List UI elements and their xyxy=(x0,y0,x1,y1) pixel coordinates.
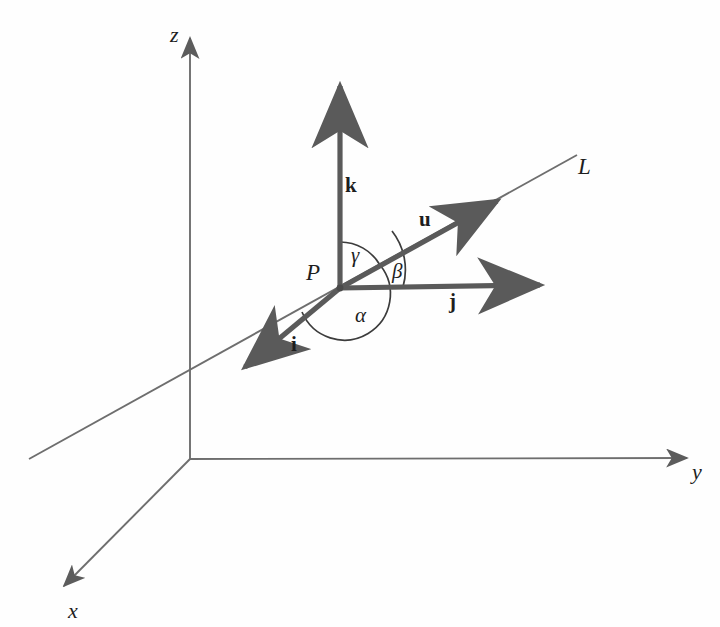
angle-label-beta: β xyxy=(392,261,402,282)
vector-label-k: k xyxy=(345,175,357,196)
angle-gamma-arc xyxy=(340,242,380,265)
line-label-L: L xyxy=(578,155,591,178)
point-label-P: P xyxy=(306,261,320,284)
axis-label-z: z xyxy=(170,24,179,46)
x-axis-line xyxy=(64,459,190,586)
vector-j-shaft xyxy=(340,285,540,288)
vector-label-j: j xyxy=(449,291,456,312)
axes-group xyxy=(64,38,687,586)
axis-label-x: x xyxy=(68,600,78,622)
axis-label-y: y xyxy=(692,461,702,483)
vector-label-u: u xyxy=(419,209,431,230)
angle-label-alpha: α xyxy=(355,305,366,326)
vector-label-i: i xyxy=(291,334,297,355)
point-P-marker xyxy=(337,285,344,292)
vector-direction-angles-figure: z y x L P k j i u γ β α xyxy=(0,0,720,627)
vectors-group xyxy=(245,86,540,367)
y-axis-line xyxy=(190,458,687,459)
angle-label-gamma: γ xyxy=(351,245,359,266)
